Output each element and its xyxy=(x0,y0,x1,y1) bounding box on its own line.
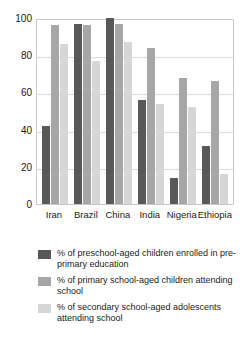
x-axis-tick-label: China xyxy=(102,208,134,222)
legend-color-swatch xyxy=(38,250,51,259)
bar xyxy=(138,100,146,204)
bar-chart-figure: 020406080100 IranBrazilChinaIndiaNigeria… xyxy=(0,0,247,341)
bar xyxy=(147,48,155,204)
legend-color-swatch xyxy=(38,277,51,286)
y-axis-tick-label: 80 xyxy=(21,51,32,61)
y-axis-tick-label: 100 xyxy=(15,14,32,24)
y-axis-tick-label: 20 xyxy=(21,163,32,173)
bar xyxy=(170,178,178,204)
bar xyxy=(124,42,132,204)
legend-item-label: % of secondary school-aged adolescents a… xyxy=(57,302,241,324)
bar xyxy=(42,126,50,204)
y-axis-tick-label: 0 xyxy=(26,200,32,210)
legend-item-label: % of preschool-aged children enrolled in… xyxy=(57,248,241,270)
x-axis: IranBrazilChinaIndiaNigeriaEthiopia xyxy=(36,208,234,222)
bar xyxy=(156,104,164,204)
y-axis: 020406080100 xyxy=(0,19,32,205)
bar xyxy=(220,174,228,204)
legend-item: % of preschool-aged children enrolled in… xyxy=(38,248,242,270)
bar xyxy=(74,24,82,204)
bar-group xyxy=(138,20,164,204)
bar-groups xyxy=(37,20,233,204)
bar xyxy=(106,18,114,204)
bar-group xyxy=(42,20,68,204)
bar xyxy=(188,107,196,204)
legend-color-swatch xyxy=(38,304,51,313)
x-axis-tick-label: Iran xyxy=(38,208,70,222)
x-axis-tick-label: Brazil xyxy=(70,208,102,222)
bar xyxy=(92,61,100,204)
plot-area xyxy=(36,19,234,205)
x-axis-tick-label: Ethiopia xyxy=(198,208,232,222)
legend-item: % of primary school-aged children attend… xyxy=(38,275,242,297)
bar-group xyxy=(74,20,100,204)
bar-group xyxy=(106,20,132,204)
bar xyxy=(60,44,68,204)
legend-item: % of secondary school-aged adolescents a… xyxy=(38,302,242,324)
bar-group xyxy=(202,20,228,204)
legend-item-label: % of primary school-aged children attend… xyxy=(57,275,241,297)
y-axis-tick-label: 60 xyxy=(21,88,32,98)
y-axis-tick-label: 40 xyxy=(21,126,32,136)
chart-legend: % of preschool-aged children enrolled in… xyxy=(38,248,242,329)
bar xyxy=(202,146,210,204)
x-axis-tick-label: India xyxy=(134,208,166,222)
bar xyxy=(211,81,219,204)
bar xyxy=(115,24,123,204)
bar xyxy=(51,25,59,204)
x-axis-tick-label: Nigeria xyxy=(166,208,198,222)
bar xyxy=(179,78,187,204)
bar xyxy=(83,25,91,204)
bar-group xyxy=(170,20,196,204)
